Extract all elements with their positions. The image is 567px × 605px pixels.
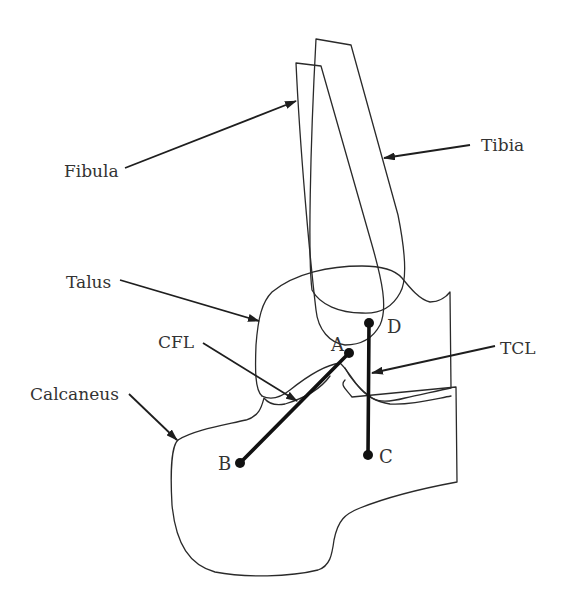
point-c-marker [363,450,373,460]
point-a-label: A [331,336,344,354]
cfl-ligament-line [240,353,349,463]
talus-label: Talus [66,274,111,291]
cfl-pointer-arrow [203,343,297,401]
tcl-ligament-line [368,323,369,455]
point-b-label: B [218,455,231,473]
fibula-label: Fibula [64,163,119,180]
point-d-label: D [387,318,401,336]
point-b-marker [235,458,245,468]
tibia-label: Tibia [481,137,524,154]
point-a-marker [344,348,354,358]
fibula-pointer-arrow [125,101,296,168]
point-d-marker [364,318,374,328]
calcaneus-pointer-arrow [129,394,177,440]
tcl-pointer-arrow [372,346,495,373]
ankle-diagram: Fibula Tibia Talus CFL Calcaneus TCL A B… [0,0,567,605]
diagram-drawing [0,0,567,605]
point-c-label: C [379,448,393,466]
calcaneus-outline [171,380,457,576]
cfl-label: CFL [158,334,194,351]
tcl-label: TCL [500,340,536,357]
talus-inner-curve [262,363,451,404]
calcaneus-label: Calcaneus [30,386,119,403]
tibia-pointer-arrow [384,145,470,158]
tibia-outline [310,39,405,313]
talus-pointer-arrow [120,280,259,321]
fibula-outline [296,63,384,345]
calcaneus-top-outline [178,376,330,440]
